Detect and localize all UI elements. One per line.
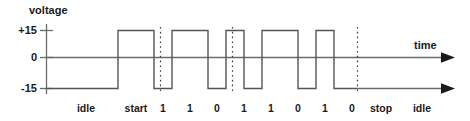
x-axis-title: time [414,40,437,51]
bit-label-d2: 0 [208,103,226,114]
bit-label-d7: 0 [343,103,361,114]
bit-label-d3: 1 [235,103,253,114]
bit-label-idle-end: idle [404,103,440,114]
voltage-waveform-trace [47,31,358,89]
y-tick-label-minus15: -15 [0,83,37,94]
low-rail-arrowhead [441,83,455,94]
y-tick-label-plus15: +15 [0,25,37,36]
bit-label-d6: 1 [316,103,334,114]
waveform-figure: voltage +15 0 -15 time idle start 1 1 0 … [0,0,470,121]
bit-label-idle-start: idle [64,103,108,114]
bit-label-d0: 1 [154,103,172,114]
y-tick-label-zero: 0 [0,52,37,63]
bit-label-d4: 1 [262,103,280,114]
bit-label-d1: 1 [181,103,199,114]
bit-label-start: start [114,103,158,114]
y-axis-title: voltage [29,5,68,16]
bit-label-d5: 0 [289,103,307,114]
time-axis-arrowhead [441,52,455,63]
bit-label-stop: stop [363,103,399,114]
